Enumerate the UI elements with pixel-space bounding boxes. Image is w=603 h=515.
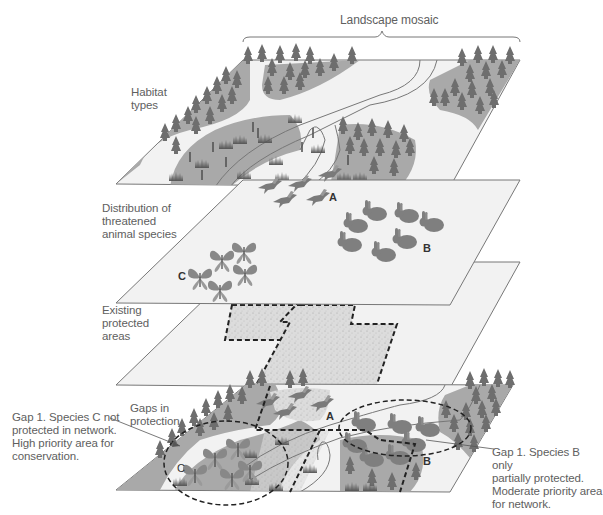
- landscape-brace: [243, 31, 520, 42]
- habitat-layer: [116, 43, 520, 187]
- species-label-c: C: [178, 270, 186, 282]
- gap-label-b: B: [423, 455, 431, 467]
- label-gaps-in-protection: Gaps in protection: [130, 402, 180, 428]
- gap-label-c: C: [177, 462, 185, 474]
- species-label-a: A: [329, 191, 337, 203]
- label-habitat-types: Habitat types: [131, 86, 167, 112]
- species-label-b: B: [423, 242, 431, 254]
- landscape-mosaic-title: Landscape mosaic: [340, 14, 438, 27]
- gap-label-a: A: [326, 410, 334, 422]
- label-existing-protected: Existing protected areas: [102, 304, 149, 343]
- label-distribution: Distribution of threatened animal specie…: [102, 202, 177, 241]
- callout-species-b: Gap 1. Species B only partially protecte…: [492, 446, 603, 511]
- callout-species-c: Gap 1. Species C not protected in networ…: [12, 411, 119, 463]
- gaps-layer: [116, 368, 515, 505]
